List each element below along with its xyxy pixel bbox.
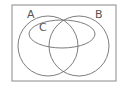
venn-diagram: A B C xyxy=(0,0,123,88)
set-a-label: A xyxy=(27,8,35,21)
set-b-label: B xyxy=(95,8,103,21)
set-c-label: C xyxy=(39,21,47,34)
set-a-circle xyxy=(18,16,78,76)
